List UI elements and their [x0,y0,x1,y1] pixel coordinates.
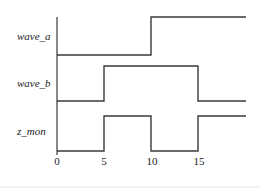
signal-label-wave-b: wave_b [17,77,51,89]
tick-label-0: 0 [54,155,60,167]
tick-label-5: 5 [101,155,107,167]
signal-label-z-mon: z_mon [16,125,46,137]
waveform-wave-b [57,66,246,101]
tick-label-15: 15 [194,155,206,167]
signal-label-wave-a: wave_a [17,30,51,42]
timing-diagram: wave_a wave_b z_mon 0 5 10 15 [0,0,260,188]
waveform-z-mon [57,116,246,151]
waveform-wave-a [57,17,246,55]
tick-label-10: 10 [147,155,159,167]
